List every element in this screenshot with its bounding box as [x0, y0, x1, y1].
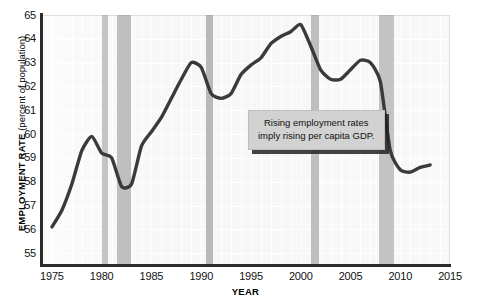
x-tick-2000: 2000 [281, 271, 321, 282]
x-tick-2005: 2005 [330, 271, 370, 282]
x-tick-1985: 1985 [131, 271, 171, 282]
x-tick-1995: 1995 [231, 271, 271, 282]
y-axis-title: EMPLOYMENT RATE (percent of population) [16, 9, 27, 259]
employment-rate-chart-figure: 65 64 63 62 61 60 59 58 57 56 55 1975 19… [0, 0, 491, 299]
x-tick-1975: 1975 [32, 271, 72, 282]
x-tick-1980: 1980 [82, 271, 122, 282]
x-tick-2015: 2015 [430, 271, 470, 282]
y-tick-labels: 65 64 63 62 61 60 59 58 57 56 55 [0, 0, 491, 299]
y-axis-title-main: EMPLOYMENT RATE [16, 133, 27, 231]
x-tick-2010: 2010 [380, 271, 420, 282]
y-axis-title-unit: (percent of population) [16, 36, 27, 134]
annotation-line-2: imply rising per capita GDP. [258, 130, 375, 143]
x-axis-title: YEAR [0, 286, 491, 297]
annotation-line-1: Rising employment rates [258, 117, 375, 130]
annotation-callout: Rising employment rates imply rising per… [248, 110, 385, 150]
x-tick-1990: 1990 [181, 271, 221, 282]
